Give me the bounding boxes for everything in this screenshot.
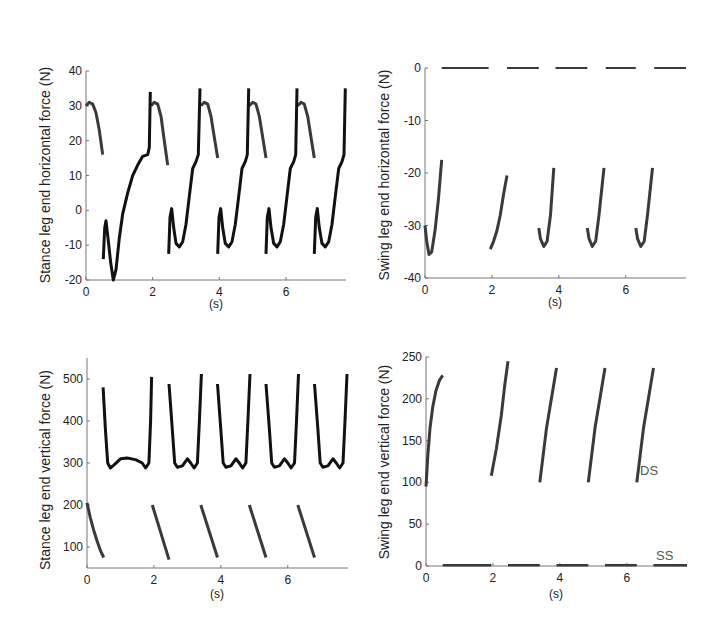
x-tick-label: 2 xyxy=(489,283,496,297)
x-tick-label: 0 xyxy=(83,285,90,299)
y-tick-label: -40 xyxy=(404,271,422,285)
data-line xyxy=(86,102,103,154)
data-line xyxy=(152,505,169,560)
ylabel-swing-horizontal: Swing leg end horizontal force (N) xyxy=(376,70,392,281)
data-line xyxy=(315,374,348,468)
x-tick-label: 2 xyxy=(490,571,497,585)
y-tick-label: 100 xyxy=(402,475,422,489)
y-tick-label: 50 xyxy=(409,517,423,531)
data-line xyxy=(266,88,297,254)
x-tick-label: 4 xyxy=(557,571,564,585)
data-line xyxy=(87,503,104,558)
data-line xyxy=(169,88,200,254)
axes-tr: -40-30-20-1000246 xyxy=(404,61,686,297)
xlabel-time: (s) xyxy=(210,587,224,601)
y-tick-label: -10 xyxy=(404,114,422,128)
y-tick-label: -10 xyxy=(65,238,83,252)
x-tick-label: 4 xyxy=(556,283,563,297)
data-line xyxy=(201,505,218,558)
data-line xyxy=(490,176,507,250)
y-tick-label: 200 xyxy=(63,498,83,512)
y-tick-label: 20 xyxy=(69,134,83,148)
data-line xyxy=(169,374,201,468)
xlabel-time: (s) xyxy=(549,587,563,601)
annotation-ds: DS xyxy=(640,463,658,478)
figure-canvas: Stance leg end horizontal force (N) (s) … xyxy=(0,0,716,625)
plot-lines-tr xyxy=(425,68,686,254)
x-tick-label: 0 xyxy=(423,571,430,585)
annotation-ss: SS xyxy=(656,548,674,563)
data-line xyxy=(636,168,653,247)
axes-tl: -20-100102030400246 xyxy=(65,64,346,299)
data-line xyxy=(298,505,315,558)
data-line xyxy=(249,102,266,158)
y-tick-label: -20 xyxy=(65,273,83,287)
y-tick-label: 40 xyxy=(69,64,83,78)
y-tick-label: 200 xyxy=(402,392,422,406)
data-line xyxy=(314,88,345,254)
data-line xyxy=(539,168,554,247)
y-tick-label: 400 xyxy=(63,414,83,428)
y-tick-label: 0 xyxy=(75,203,82,217)
x-tick-label: 6 xyxy=(623,571,630,585)
xlabel-time: (s) xyxy=(548,295,562,309)
x-tick-label: 0 xyxy=(422,283,429,297)
plot-lines-bl xyxy=(87,374,347,560)
xlabel-time: (s) xyxy=(209,297,223,311)
axes-bl: 1002003004005000246 xyxy=(63,358,348,587)
y-tick-label: 100 xyxy=(63,540,83,554)
panel-stance-horizontal-force: Stance leg end horizontal force (N) (s) … xyxy=(37,64,346,311)
y-tick-label: 150 xyxy=(402,434,422,448)
x-tick-label: 6 xyxy=(622,283,629,297)
x-tick-label: 6 xyxy=(284,573,291,587)
ylabel-swing-vertical: Swing leg end vertical force (N) xyxy=(376,365,392,560)
data-line xyxy=(266,374,299,468)
panel-swing-horizontal-force: Swing leg end horizontal force (N) (s) -… xyxy=(376,61,686,309)
data-line xyxy=(103,92,150,280)
data-line xyxy=(218,374,251,468)
ylabel-stance-horizontal: Stance leg end horizontal force (N) xyxy=(37,67,53,283)
x-tick-label: 2 xyxy=(149,285,156,299)
y-tick-label: 0 xyxy=(414,61,421,75)
x-tick-label: 4 xyxy=(216,285,223,299)
panel-stance-vertical-force: Stance leg end vertical force (N) (s) 10… xyxy=(37,358,348,601)
x-tick-label: 4 xyxy=(218,573,225,587)
panel-swing-vertical-force: Swing leg end vertical force (N) (s) 050… xyxy=(376,350,687,601)
ylabel-stance-vertical: Stance leg end vertical force (N) xyxy=(37,370,53,570)
data-line xyxy=(298,102,315,158)
data-line xyxy=(103,377,152,468)
data-line xyxy=(201,102,218,158)
data-line xyxy=(249,505,266,558)
y-tick-label: 10 xyxy=(69,169,83,183)
y-tick-label: -30 xyxy=(404,219,422,233)
data-line xyxy=(587,168,604,247)
y-tick-label: 30 xyxy=(69,99,83,113)
y-tick-label: 250 xyxy=(402,350,422,364)
plot-lines-tl xyxy=(86,88,345,280)
y-tick-label: 300 xyxy=(63,456,83,470)
y-tick-label: -20 xyxy=(404,166,422,180)
data-line xyxy=(218,88,249,254)
y-tick-label: 500 xyxy=(63,372,83,386)
data-line xyxy=(151,102,168,165)
x-tick-label: 0 xyxy=(84,573,91,587)
data-line xyxy=(426,375,443,486)
x-tick-label: 2 xyxy=(151,573,158,587)
data-line xyxy=(491,361,508,476)
data-line xyxy=(425,160,442,255)
x-tick-label: 6 xyxy=(283,285,290,299)
data-line xyxy=(588,368,605,483)
y-tick-label: 0 xyxy=(415,559,422,573)
data-line xyxy=(540,368,557,483)
